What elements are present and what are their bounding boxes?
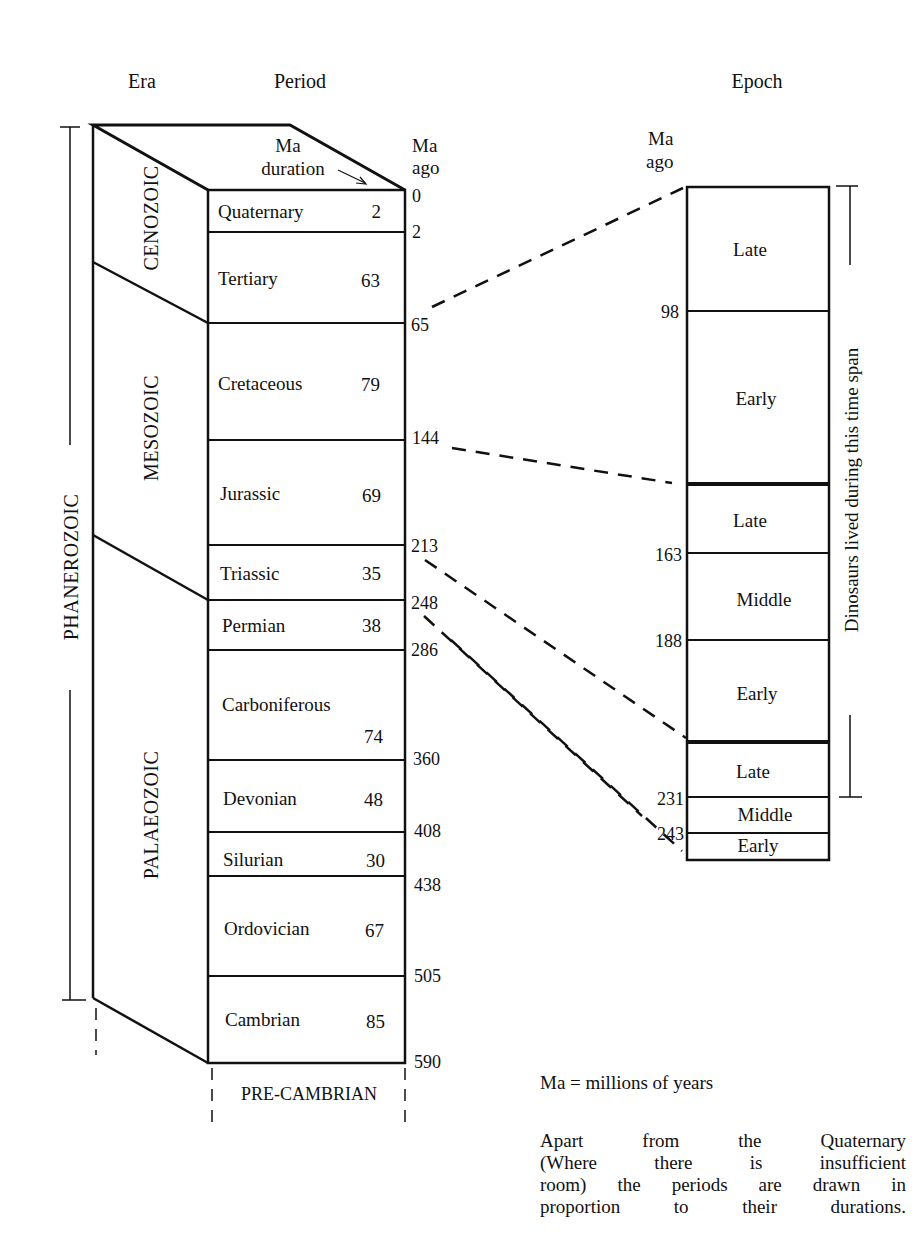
era-label-cenozoic: CENOZOIC [140,165,162,270]
tick-label: 231 [657,789,684,809]
dinosaur-span-label: Dinosaurs lived during this time span [841,347,862,632]
epoch-ma-ago-line1: Ma [648,128,674,149]
period-name: Tertiary [218,268,278,289]
proportion-note-line: Apart from the Quaternary [540,1130,906,1152]
tick-label: 438 [414,875,441,895]
proportion-note: Apart from the Quaternary (Where there i… [540,1130,906,1218]
connector-lines [424,188,686,851]
proportion-note-line: proportion to their durations. [540,1196,906,1218]
era-label-mesozoic: MESOZOIC [140,375,162,481]
period-name: Ordovician [224,918,310,939]
epoch-name: Late [733,510,767,531]
epoch-header: Epoch [731,70,782,93]
period-tick-labels: 0 2 65 144 213 248 286 360 408 438 505 5… [411,186,441,1072]
period-duration: 69 [362,485,381,506]
period-duration: 79 [361,374,380,395]
proportion-note-line: room) the periods are drawn in [540,1174,906,1196]
epoch-name: Late [736,761,770,782]
epoch-name: Early [737,835,779,856]
ma-definition-note: Ma = millions of years [540,1072,713,1094]
tick-label: 2 [412,222,421,242]
period-duration: 2 [372,201,382,222]
period-duration: 48 [364,789,383,810]
epoch-name: Early [736,683,778,704]
period-name: Silurian [223,849,284,870]
tick-label: 188 [655,631,682,651]
period-name: Permian [222,615,286,636]
tick-label: 505 [414,966,441,986]
period-duration: 38 [362,615,381,636]
period-duration: 85 [366,1011,385,1032]
tick-label: 248 [411,593,438,613]
tick-label: 163 [655,545,682,565]
period-duration: 63 [361,270,380,291]
period-name: Cretaceous [218,373,302,394]
period-name: Triassic [220,563,279,584]
tick-label: 98 [661,302,679,322]
epoch-name: Early [735,388,777,409]
tick-label: 590 [414,1052,441,1072]
epoch-name: Middle [738,804,793,825]
epoch-names: Late Early Late Middle Early Late Middle… [733,239,792,856]
epoch-ma-ago-line2: ago [646,151,673,172]
era-label-palaeozoic: PALAEOZOIC [140,751,162,880]
ma-ago-label-line2: ago [412,157,439,178]
period-name: Carboniferous [222,694,331,715]
tick-label: 144 [412,428,439,448]
period-duration: 67 [365,920,384,941]
tick-label: 286 [411,640,438,660]
tick-label: 360 [413,749,440,769]
ma-duration-label-line1: Ma [275,135,301,156]
proportion-note-line: (Where there is insufficient [540,1152,906,1174]
tick-label: 408 [414,821,441,841]
tick-label: 213 [411,536,438,556]
period-duration: 74 [364,726,384,747]
period-duration: 30 [366,850,385,871]
period-name: Quaternary [218,201,304,222]
era-header: Era [128,70,156,92]
tick-label: 65 [411,315,429,335]
period-names: Quaternary Tertiary Cretaceous Jurassic … [218,201,331,1030]
arrow-icon [338,170,366,184]
epoch-name: Late [733,239,767,260]
tick-label: 243 [657,824,684,844]
period-name: Cambrian [225,1009,300,1030]
period-duration: 35 [362,563,381,584]
epoch-name: Middle [737,589,792,610]
period-durations: 2 63 79 69 35 38 74 48 30 67 85 [361,201,385,1032]
geologic-time-diagram: Era Period Epoch PHANEROZOIC Ma duration [0,0,917,1247]
period-name: Jurassic [220,483,280,504]
ma-ago-label-line1: Ma [412,135,438,156]
period-header: Period [274,70,326,92]
epoch-tick-labels: 98 163 188 231 243 [655,302,684,844]
period-name: Devonian [223,788,297,809]
precambrian-label: PRE-CAMBRIAN [241,1084,377,1104]
ma-duration-label-line2: duration [261,158,325,179]
tick-label: 0 [412,186,421,206]
eon-label-phanerozoic: PHANEROZOIC [60,494,82,641]
